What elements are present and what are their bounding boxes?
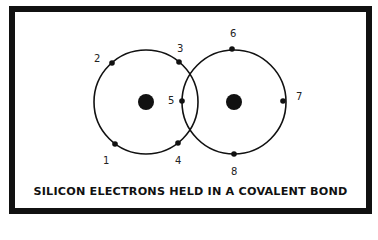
electron-4 [175, 140, 181, 146]
electron-7 [280, 98, 286, 104]
electron-1 [112, 141, 118, 147]
electron-label-4: 4 [175, 155, 181, 166]
electron-label-3: 3 [177, 43, 183, 54]
electron-label-1: 1 [103, 155, 109, 166]
electron-label-5: 5 [168, 95, 174, 106]
electron-label-2: 2 [94, 53, 100, 64]
electron-label-6: 6 [230, 28, 236, 39]
electron-2 [109, 60, 115, 66]
left-atom-nucleus [138, 94, 154, 110]
electron-label-7: 7 [296, 91, 302, 102]
electron-3 [176, 59, 182, 65]
right-atom-nucleus [226, 94, 242, 110]
diagram-caption: SILICON ELECTRONS HELD IN A COVALENT BON… [15, 185, 366, 198]
atoms-layer [94, 50, 286, 154]
electron-8 [231, 151, 237, 157]
electron-5 [179, 98, 185, 104]
electron-label-8: 8 [231, 166, 237, 177]
electron-6 [229, 46, 235, 52]
